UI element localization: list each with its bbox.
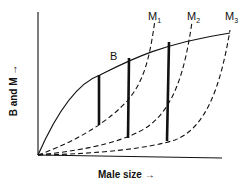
label-m1: M1 (148, 10, 161, 24)
label-b: B (110, 50, 117, 62)
x-axis (38, 155, 222, 158)
y-axis-label: B and M → (8, 65, 19, 117)
bar-3 (167, 42, 169, 141)
curve-m1 (38, 20, 155, 155)
bar-2 (128, 58, 129, 138)
label-m2: M2 (187, 10, 200, 24)
x-axis-label: Male size → (98, 169, 155, 180)
diagram-canvas (0, 0, 246, 187)
label-m3: M3 (225, 10, 238, 24)
curve-b (38, 33, 230, 155)
